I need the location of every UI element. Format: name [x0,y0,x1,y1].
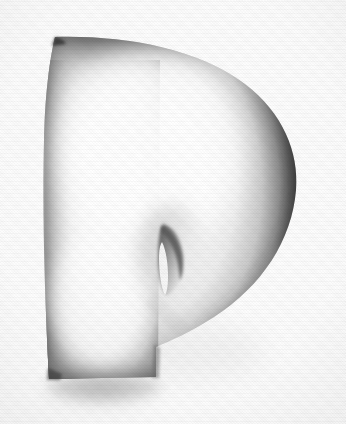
letter-p-artwork [0,0,346,424]
stem-highlight [52,234,148,366]
artwork-canvas: A stylized three-dimensional airbrushed … [0,0,346,424]
counter [138,206,206,310]
